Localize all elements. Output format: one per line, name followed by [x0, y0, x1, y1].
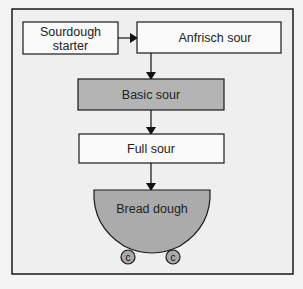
node-label-line1: Sourdough	[40, 25, 101, 39]
wheel-label: c	[171, 252, 176, 263]
wheel-left: c	[121, 250, 135, 264]
node-label: Basic sour	[122, 88, 180, 102]
node-label: Bread dough	[116, 202, 188, 216]
wheel-label: c	[126, 252, 131, 263]
node-basic-sour: Basic sour	[78, 79, 224, 110]
node-anfrisch-sour: Anfrisch sour	[137, 22, 281, 53]
node-label: Full sour	[127, 142, 175, 156]
sourdough-process-diagram: Sourdough starter Anfrisch sour Basic so…	[0, 0, 303, 289]
wheel-right: c	[166, 250, 180, 264]
node-label-line2: starter	[53, 39, 88, 53]
node-full-sour: Full sour	[79, 134, 224, 163]
node-sourdough-starter: Sourdough starter	[23, 22, 118, 54]
node-label: Anfrisch sour	[179, 31, 252, 45]
